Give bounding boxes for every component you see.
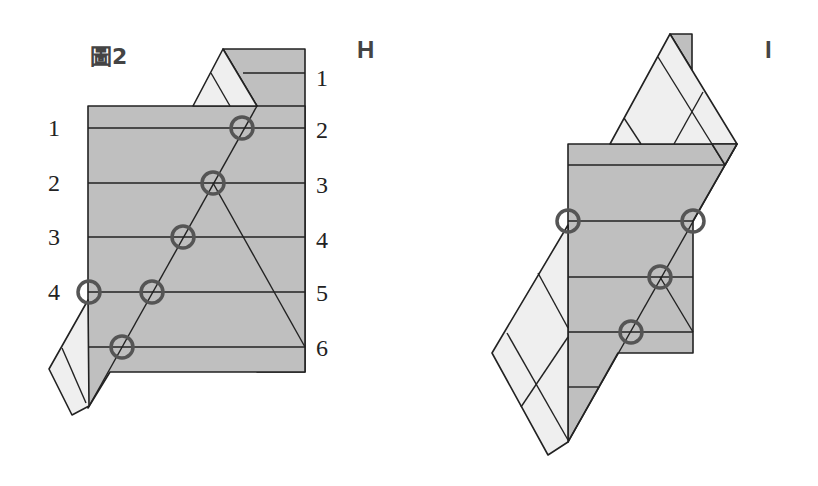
right-label: 5 (316, 280, 328, 306)
origami-diagram: 圖2 H 1 2 3 4 1 2 3 4 5 6 (0, 0, 818, 486)
right-label: 1 (316, 65, 328, 91)
left-label: 4 (48, 279, 60, 305)
panel-i: I (492, 34, 772, 455)
left-label: 3 (48, 224, 60, 250)
figure-title: 圖2 (90, 44, 127, 69)
panel-i-label: I (765, 36, 772, 63)
top-flap (610, 34, 737, 144)
main-rectangle (88, 106, 305, 408)
right-label: 6 (316, 335, 328, 361)
right-label: 2 (316, 117, 328, 143)
right-label: 3 (316, 172, 328, 198)
panel-h: 圖2 H 1 2 3 4 1 2 3 4 5 6 (48, 36, 374, 415)
panel-h-label: H (357, 36, 374, 63)
left-label: 2 (48, 170, 60, 196)
right-label: 4 (316, 227, 328, 253)
left-label: 1 (48, 115, 60, 141)
